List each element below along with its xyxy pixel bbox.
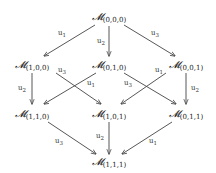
arrow-n010-to-n011 <box>124 73 176 104</box>
node-n110: 𝓜(1,1,0) <box>15 108 50 121</box>
node-n101: 𝓜(1,0,1) <box>92 108 127 121</box>
node-n001: 𝓜(0,0,1) <box>169 59 204 72</box>
edge-label: u1 <box>149 137 157 146</box>
edge-label: u3 <box>151 29 160 38</box>
edge-label: u1 <box>58 29 66 38</box>
edges-group <box>32 25 186 154</box>
edge-label: u1 <box>155 66 163 75</box>
edge-label: u3 <box>58 66 67 75</box>
edge-label: u1 <box>87 79 95 88</box>
arrow-n010-to-n110 <box>44 73 96 104</box>
edge-label: u2 <box>18 84 26 93</box>
edge-label: u2 <box>97 37 105 46</box>
edge-label: u2 <box>191 84 199 93</box>
edge-labels-group: u1u2u3u2u3u1u3u1u2u3u2u1 <box>18 29 199 146</box>
node-n010: 𝓜(0,1,0) <box>92 59 127 72</box>
edge-label: u3 <box>55 137 64 146</box>
arrow-n000-to-n001 <box>124 25 175 56</box>
node-n111: 𝓜(1,1,1) <box>92 156 127 169</box>
node-n000: 𝓜(0,0,0) <box>92 11 127 24</box>
arrow-n011-to-n111 <box>122 122 172 154</box>
node-n011: 𝓜(0,1,1) <box>169 108 204 121</box>
edge-label: u2 <box>96 132 104 141</box>
arrow-n001-to-n101 <box>121 73 166 104</box>
edge-label: u3 <box>124 79 133 88</box>
arrow-n000-to-n100 <box>44 25 95 56</box>
lattice-diagram: u1u2u3u2u3u1u3u1u2u3u2u1 𝓜(0,0,0)𝓜(1,0,0… <box>0 0 216 173</box>
arrow-n100-to-n101 <box>56 73 101 104</box>
node-n100: 𝓜(1,0,0) <box>15 59 50 72</box>
